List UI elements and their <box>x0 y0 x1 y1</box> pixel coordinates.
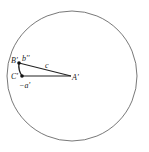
label-neg-a-prime: −a' <box>19 81 30 90</box>
label-c-prime: C' <box>11 72 18 81</box>
label-a-prime: A' <box>71 73 79 82</box>
label-c: c <box>45 61 49 70</box>
vertex-c <box>20 74 24 78</box>
label-b-prime: B' <box>11 56 18 65</box>
vertex-b <box>17 61 21 65</box>
label-b-double-prime: b'' <box>22 54 30 63</box>
diagram-canvas: B' b'' c A' C' −a' <box>0 0 149 152</box>
side-b-arc <box>19 63 22 76</box>
